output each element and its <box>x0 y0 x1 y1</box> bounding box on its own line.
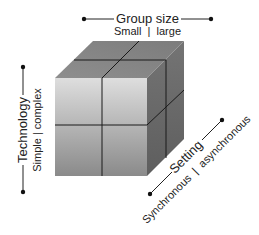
axis-title-technology: Technology <box>15 97 30 163</box>
axis-endpoint-dot <box>82 17 86 21</box>
axis-endpoint-dot <box>209 17 213 21</box>
axis-endpoint-dot <box>21 65 25 69</box>
axis-group-size: Group size Small | large <box>82 11 213 37</box>
axis-range-group-size: Small | large <box>114 25 181 37</box>
axis-title-group-size: Group size <box>116 11 179 26</box>
axis-endpoint-dot <box>148 192 152 196</box>
axis-range-technology: Simple | complex <box>31 88 43 172</box>
axis-endpoint-dot <box>220 118 224 122</box>
cube-front-face <box>55 78 147 176</box>
cube <box>55 41 184 176</box>
cube-diagram: Group size Small | large Technology Simp… <box>0 0 259 235</box>
axis-endpoint-dot <box>21 190 25 194</box>
axis-technology: Technology Simple | complex <box>15 65 43 194</box>
